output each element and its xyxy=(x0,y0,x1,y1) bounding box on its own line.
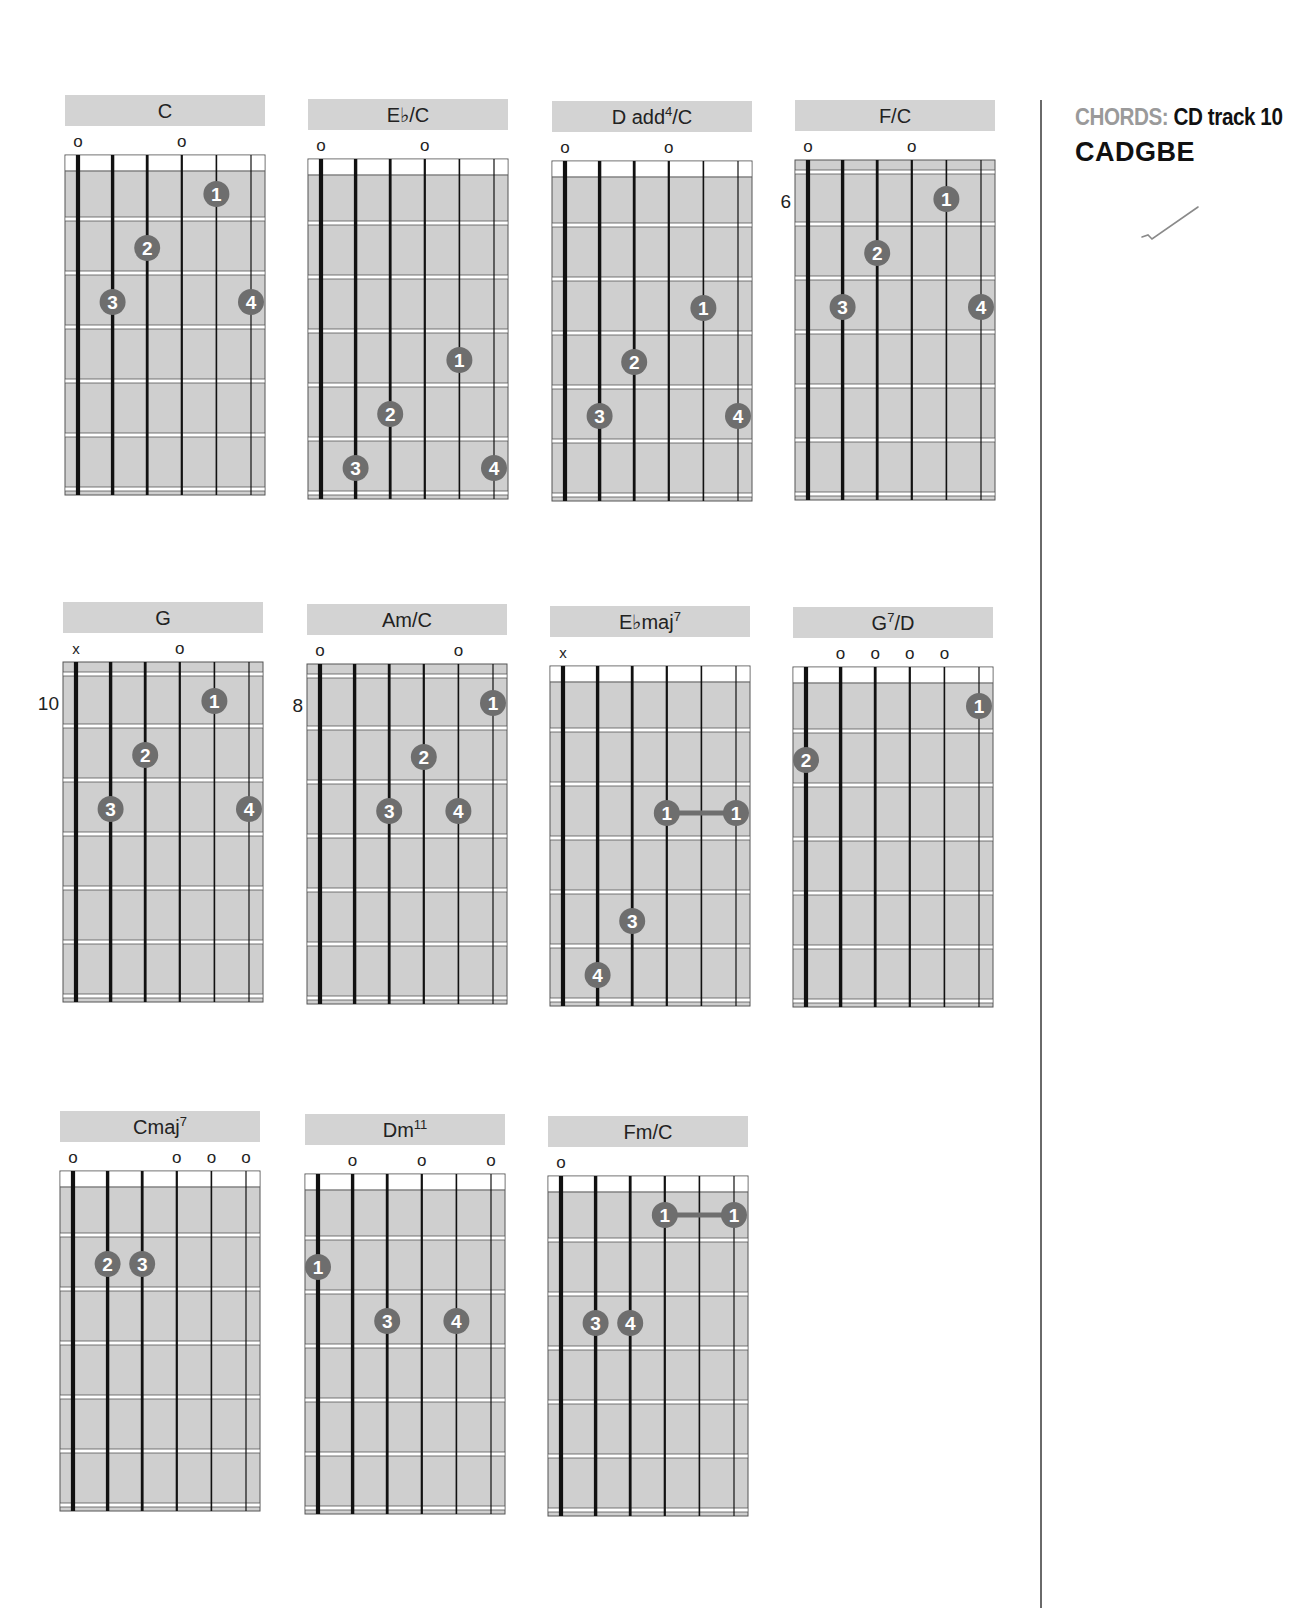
finger-dot: 1 xyxy=(446,347,472,373)
svg-text:1: 1 xyxy=(660,1205,671,1226)
finger-dot: 4 xyxy=(443,1308,469,1334)
svg-text:2: 2 xyxy=(872,243,883,264)
svg-text:4: 4 xyxy=(246,292,257,313)
chord-diagram-ebmaj7: E♭maj7x1134 xyxy=(550,606,752,1026)
finger-dot: 4 xyxy=(445,798,471,824)
chord-name-bass: /D xyxy=(894,612,914,634)
chord-name: G7/D xyxy=(793,607,993,638)
finger-dot: 4 xyxy=(725,403,751,429)
open-string-marker: o xyxy=(420,136,429,155)
fretboard: oooo12 xyxy=(793,647,995,1013)
fretboard: oooo23 xyxy=(60,1151,262,1517)
svg-text:3: 3 xyxy=(137,1254,148,1275)
open-string-marker: o xyxy=(417,1151,426,1170)
svg-text:3: 3 xyxy=(590,1313,601,1334)
finger-dot: 2 xyxy=(621,349,647,375)
chord-diagram-c: Coo1234 xyxy=(65,95,267,515)
cd-track-label: CD track 10 xyxy=(1174,103,1283,130)
finger-dot: 1 xyxy=(690,295,716,321)
fretboard: xo1234 xyxy=(63,642,265,1008)
fretboard: oo1234 xyxy=(795,140,997,506)
svg-text:2: 2 xyxy=(801,750,812,771)
finger-dot: 2 xyxy=(134,235,160,261)
svg-text:3: 3 xyxy=(382,1311,393,1332)
chord-name: Dm11 xyxy=(305,1114,505,1145)
muted-string-marker: x xyxy=(72,640,80,657)
finger-dot: 1 xyxy=(480,690,506,716)
finger-dot: 4 xyxy=(617,1310,643,1336)
svg-text:3: 3 xyxy=(107,292,118,313)
chord-name-root: D add xyxy=(612,106,665,128)
chord-name-root: G xyxy=(155,607,171,629)
chord-diagram-g: G10xo1234 xyxy=(63,602,265,1022)
chord-name: E♭/C xyxy=(308,99,508,130)
open-string-marker: o xyxy=(172,1148,181,1167)
finger-dot: 1 xyxy=(652,1202,678,1228)
muted-string-marker: x xyxy=(559,644,567,661)
fretboard: oo1234 xyxy=(65,135,267,501)
open-string-marker: o xyxy=(905,644,914,663)
svg-text:3: 3 xyxy=(384,801,395,822)
chords-heading: CHORDS: CD track 10 xyxy=(1075,103,1282,131)
finger-dot: 3 xyxy=(129,1251,155,1277)
chord-name-root: Dm xyxy=(383,1119,414,1141)
finger-dot: 3 xyxy=(374,1308,400,1334)
finger-dot: 3 xyxy=(376,798,402,824)
finger-dot: 3 xyxy=(830,294,856,320)
svg-text:1: 1 xyxy=(941,189,952,210)
chords-heading-label: CHORDS: xyxy=(1075,103,1168,130)
chord-diagram-am-c: Am/C8oo1234 xyxy=(307,604,509,1024)
chord-diagram-cmaj7: Cmaj7oooo23 xyxy=(60,1111,262,1531)
chord-name-root: C xyxy=(158,100,172,122)
fret-position-label: 6 xyxy=(780,191,791,213)
finger-dot: 4 xyxy=(481,455,507,481)
svg-text:1: 1 xyxy=(698,298,709,319)
finger-dot: 4 xyxy=(238,289,264,315)
svg-text:2: 2 xyxy=(629,352,640,373)
svg-text:2: 2 xyxy=(140,745,151,766)
finger-dot: 3 xyxy=(587,403,613,429)
svg-text:2: 2 xyxy=(385,404,396,425)
chord-name: G xyxy=(63,602,263,633)
svg-text:3: 3 xyxy=(350,458,361,479)
open-string-marker: o xyxy=(315,641,324,660)
svg-text:4: 4 xyxy=(733,406,744,427)
fretboard: o1134 xyxy=(548,1156,750,1522)
open-string-marker: o xyxy=(68,1148,77,1167)
chord-name-bass: /C xyxy=(672,106,692,128)
check-mark-icon xyxy=(1140,205,1200,245)
svg-text:3: 3 xyxy=(837,297,848,318)
sidebar-divider xyxy=(1040,100,1042,1608)
open-string-marker: o xyxy=(207,1148,216,1167)
chord-name-root: Am/C xyxy=(382,609,432,631)
finger-dot: 3 xyxy=(100,289,126,315)
chord-diagram-g7-d: G7/Doooo12 xyxy=(793,607,995,1027)
chord-diagram-d-add4-c: D add4/Coo1234 xyxy=(552,101,754,521)
chord-name-root: E♭maj xyxy=(619,611,674,633)
svg-text:4: 4 xyxy=(976,297,987,318)
svg-text:1: 1 xyxy=(211,184,222,205)
svg-text:2: 2 xyxy=(419,747,430,768)
chord-name: Fm/C xyxy=(548,1116,748,1147)
chord-name-root: Fm/C xyxy=(624,1121,673,1143)
chord-name: E♭maj7 xyxy=(550,606,750,637)
finger-dot: 1 xyxy=(305,1254,331,1280)
chord-name-superscript: 7 xyxy=(180,1114,187,1129)
svg-text:4: 4 xyxy=(453,801,464,822)
svg-text:3: 3 xyxy=(105,799,116,820)
chord-name: F/C xyxy=(795,100,995,131)
chord-name-root: E♭/C xyxy=(387,104,429,126)
open-string-marker: o xyxy=(870,644,879,663)
open-string-marker: o xyxy=(560,138,569,157)
tuning-label: CADGBE xyxy=(1075,137,1195,168)
open-string-marker: o xyxy=(940,644,949,663)
open-string-marker: o xyxy=(803,137,812,156)
finger-dot: 3 xyxy=(619,908,645,934)
finger-dot: 4 xyxy=(585,962,611,988)
chord-diagram-f-c: F/C6oo1234 xyxy=(795,100,997,520)
svg-text:1: 1 xyxy=(313,1257,324,1278)
chord-name-root: G xyxy=(872,612,888,634)
finger-dot: 2 xyxy=(132,742,158,768)
open-string-marker: o xyxy=(907,137,916,156)
fret-position-label: 10 xyxy=(38,693,59,715)
